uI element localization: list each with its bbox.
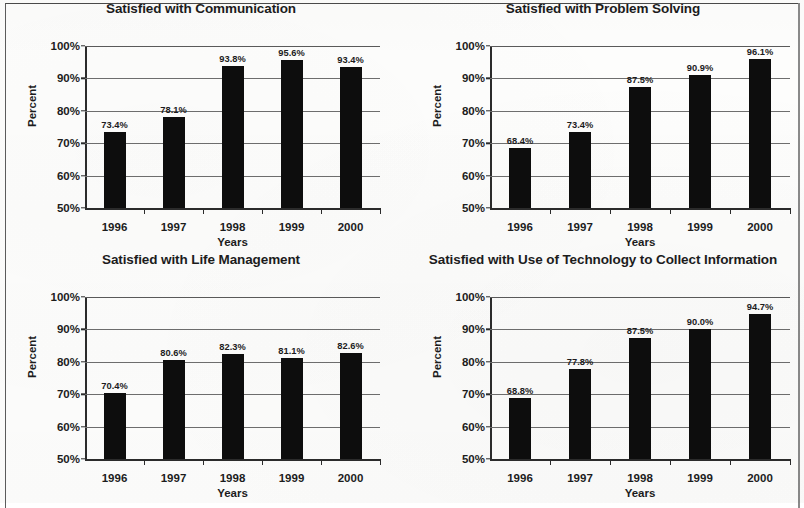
x-tick-label: 1998: [202, 221, 264, 233]
bar-value-label: 87.5%: [610, 75, 670, 85]
x-tick-mark: [670, 208, 671, 214]
x-tick-mark: [262, 208, 263, 214]
y-tick-mark: [81, 175, 86, 176]
bar-value-label: 68.8%: [490, 386, 550, 396]
x-tick-label: 1996: [489, 472, 551, 484]
x-tick-mark: [262, 459, 263, 465]
chart-title: Satisfied with Problem Solving: [402, 1, 804, 16]
y-tick-mark: [486, 175, 491, 176]
y-tick-label: 70%: [57, 388, 80, 400]
y-tick-label: 80%: [57, 356, 80, 368]
gridline: [85, 297, 380, 298]
gridline: [490, 459, 790, 461]
y-tick-mark: [486, 458, 491, 459]
bar: [281, 60, 303, 208]
x-tick-mark: [670, 459, 671, 465]
x-tick-label: 1997: [143, 221, 205, 233]
chart-title: Satisfied with Use of Technology to Coll…: [402, 252, 804, 267]
y-tick-mark: [486, 296, 491, 297]
y-tick-label: 90%: [57, 72, 80, 84]
y-axis-title: Percent: [431, 336, 443, 378]
x-tick-label: 1999: [669, 221, 731, 233]
bar: [163, 117, 185, 208]
y-tick-label: 70%: [462, 388, 485, 400]
gridline: [490, 208, 790, 210]
y-axis-line: [490, 297, 492, 459]
bar: [104, 393, 126, 459]
bar: [509, 398, 531, 459]
x-tick-mark: [321, 208, 322, 214]
x-tick-label: 1997: [143, 472, 205, 484]
gridline: [85, 329, 380, 330]
y-tick-label: 90%: [462, 323, 485, 335]
x-axis-title: Years: [490, 236, 790, 248]
bar: [749, 314, 771, 459]
bar-value-label: 68.4%: [490, 136, 550, 146]
y-tick-label: 100%: [456, 40, 485, 52]
y-tick-mark: [486, 110, 491, 111]
y-tick-mark: [486, 78, 491, 79]
y-tick-mark: [81, 78, 86, 79]
bar-value-label: 77.8%: [550, 357, 610, 367]
bar: [163, 360, 185, 459]
bar: [569, 132, 591, 208]
chart-title: Satisfied with Communication: [0, 1, 402, 16]
y-tick-mark: [486, 329, 491, 330]
y-tick-mark: [81, 296, 86, 297]
bar-value-label: 78.1%: [144, 105, 204, 115]
y-tick-label: 50%: [462, 453, 485, 465]
x-tick-mark: [730, 208, 731, 214]
y-tick-label: 100%: [51, 291, 80, 303]
y-tick-mark: [81, 329, 86, 330]
y-tick-label: 80%: [462, 105, 485, 117]
bar-value-label: 82.3%: [203, 342, 263, 352]
x-tick-label: 2000: [729, 472, 791, 484]
y-tick-mark: [81, 426, 86, 427]
gridline: [490, 297, 790, 298]
x-tick-mark: [550, 459, 551, 465]
gridline: [85, 459, 380, 461]
chart-panel-communication: Satisfied with Communication Percent 50%…: [0, 0, 402, 252]
y-tick-label: 60%: [57, 421, 80, 433]
y-tick-label: 100%: [51, 40, 80, 52]
bar-value-label: 90.0%: [670, 317, 730, 327]
y-tick-mark: [81, 207, 86, 208]
x-axis-title: Years: [85, 487, 380, 499]
x-tick-label: 1998: [202, 472, 264, 484]
x-tick-mark: [144, 459, 145, 465]
x-tick-label: 1999: [669, 472, 731, 484]
x-tick-mark: [380, 208, 381, 214]
y-tick-label: 80%: [462, 356, 485, 368]
y-tick-label: 60%: [462, 421, 485, 433]
bar-value-label: 73.4%: [85, 120, 145, 130]
bar: [569, 369, 591, 459]
x-tick-mark: [610, 208, 611, 214]
y-axis-line: [85, 297, 87, 459]
bar-value-label: 80.6%: [144, 348, 204, 358]
x-tick-label: 2000: [320, 221, 382, 233]
y-tick-mark: [81, 361, 86, 362]
bar-value-label: 73.4%: [550, 120, 610, 130]
x-tick-label: 2000: [729, 221, 791, 233]
y-tick-mark: [486, 207, 491, 208]
y-tick-label: 90%: [57, 323, 80, 335]
y-tick-mark: [81, 45, 86, 46]
bar-value-label: 93.4%: [321, 55, 381, 65]
bar: [749, 59, 771, 208]
y-tick-label: 50%: [57, 453, 80, 465]
bar-value-label: 87.5%: [610, 326, 670, 336]
y-axis-title: Percent: [431, 85, 443, 127]
y-tick-label: 60%: [462, 170, 485, 182]
x-tick-mark: [610, 459, 611, 465]
y-tick-label: 60%: [57, 170, 80, 182]
x-tick-mark: [550, 208, 551, 214]
x-axis-title: Years: [85, 236, 380, 248]
x-tick-label: 1997: [549, 221, 611, 233]
x-tick-label: 1996: [84, 221, 146, 233]
x-tick-label: 1999: [261, 221, 323, 233]
bar: [629, 338, 651, 460]
bar-value-label: 95.6%: [262, 48, 322, 58]
y-tick-label: 100%: [456, 291, 485, 303]
x-tick-label: 1997: [549, 472, 611, 484]
y-tick-label: 90%: [462, 72, 485, 84]
